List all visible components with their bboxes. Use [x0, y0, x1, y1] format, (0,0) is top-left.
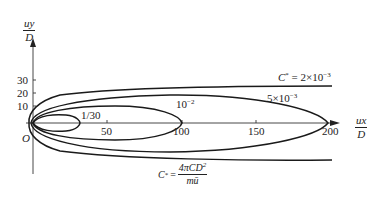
formula-fraction: 4πCD2 mū — [178, 163, 207, 186]
formula-equals: = — [170, 169, 176, 180]
label-1-30: 1/30 — [81, 110, 101, 121]
origin-label: O — [22, 133, 30, 144]
y-tick-20: 20 — [17, 88, 28, 99]
label-1e-2-exp: −2 — [187, 98, 194, 106]
formula-lhs: C — [158, 169, 165, 180]
x-tick-150: 150 — [248, 126, 265, 137]
label-5e-3-exp: −3 — [290, 92, 297, 100]
formula-denominator: mū — [186, 175, 198, 186]
axes — [26, 46, 336, 174]
y-axis-label-numerator: uy — [23, 18, 35, 31]
formula: C* = 4πCD2 mū — [158, 163, 207, 186]
label-1e-2-base: 10 — [176, 98, 187, 110]
y-tick-30: 30 — [17, 75, 28, 86]
formula-num-exp: 2 — [203, 161, 207, 169]
label-5e-3: 5×10−3 — [267, 93, 297, 104]
y-tick-10: 10 — [17, 101, 28, 112]
x-axis-label-denominator: D — [357, 128, 365, 140]
x-axis-label-numerator: ux — [355, 115, 367, 128]
y-axis-label: uy D — [23, 18, 35, 43]
label-2e-3-value: = 2×10 — [289, 71, 323, 83]
formula-num-text: 4πCD — [179, 162, 203, 173]
x-tick-50: 50 — [101, 126, 112, 137]
label-2e-3-exp: −3 — [323, 71, 330, 79]
formula-numerator: 4πCD2 — [178, 163, 207, 175]
x-tick-200: 200 — [322, 126, 339, 137]
label-2e-3: C* = 2×10−3 — [278, 72, 331, 83]
x-axis-label: ux D — [355, 115, 367, 140]
label-1e-2: 10−2 — [176, 99, 194, 110]
y-axis-label-denominator: D — [25, 31, 33, 43]
label-5e-3-base: 5×10 — [267, 92, 290, 104]
x-tick-100: 100 — [173, 126, 190, 137]
